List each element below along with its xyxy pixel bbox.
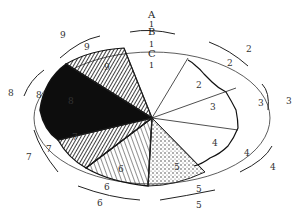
sector-diagram: A B C 1 1 1 222 333 444 555 666 777 888 … (0, 0, 298, 221)
svg-text:9: 9 (84, 42, 90, 52)
svg-text:5: 5 (196, 184, 202, 194)
ring-label-a: A (147, 9, 156, 20)
svg-text:5: 5 (196, 200, 202, 210)
svg-text:4: 4 (212, 138, 218, 148)
svg-text:2: 2 (196, 80, 202, 90)
svg-text:1: 1 (149, 40, 154, 49)
svg-text:3: 3 (286, 96, 292, 106)
svg-text:9: 9 (104, 62, 110, 72)
svg-text:7: 7 (72, 132, 78, 142)
svg-text:4: 4 (270, 162, 276, 172)
sector-2-4-edge (188, 60, 238, 166)
svg-text:4: 4 (244, 148, 250, 158)
svg-text:8: 8 (36, 90, 42, 100)
svg-text:9: 9 (60, 30, 66, 40)
svg-text:7: 7 (26, 152, 32, 162)
svg-text:7: 7 (46, 144, 52, 154)
svg-text:8: 8 (68, 96, 74, 106)
svg-text:6: 6 (104, 182, 110, 192)
svg-text:2: 2 (246, 44, 252, 54)
svg-text:2: 2 (227, 58, 233, 68)
ring-label-c: C (148, 48, 156, 59)
svg-text:6: 6 (97, 198, 103, 208)
svg-text:3: 3 (258, 98, 264, 108)
svg-text:6: 6 (118, 164, 124, 174)
svg-text:1: 1 (149, 61, 154, 70)
svg-text:1: 1 (149, 20, 154, 29)
svg-text:3: 3 (210, 102, 216, 112)
sector-5-region (148, 118, 205, 186)
svg-text:5: 5 (174, 162, 180, 172)
svg-text:8: 8 (8, 88, 14, 98)
